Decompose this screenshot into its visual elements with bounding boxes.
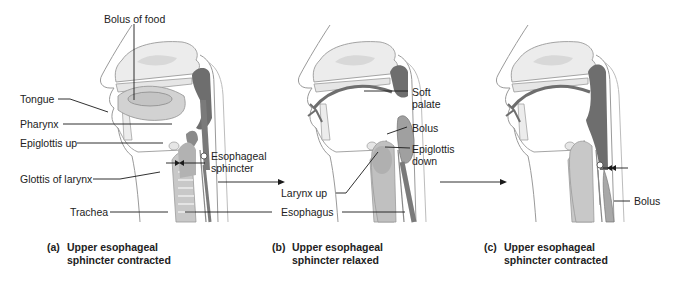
label-esophagus: Esophagus [281, 206, 334, 218]
label-bolus-b: Bolus [412, 122, 438, 134]
label-trachea: Trachea [70, 206, 108, 218]
caption-letter-c: (c) [484, 241, 497, 254]
label-epiglottis-down: Epiglottis down [412, 143, 455, 167]
caption-letter-a: (a) [47, 241, 60, 254]
caption-panel-c: (c) Upper esophageal sphincter contracte… [504, 241, 608, 267]
caption-panel-b: (b) Upper esophageal sphincter relaxed [292, 241, 383, 267]
label-bolus-c: Bolus [634, 195, 660, 207]
label-esophageal-sphincter: Esophageal sphincter [211, 150, 266, 174]
label-glottis-of-larynx: Glottis of larynx [20, 173, 92, 185]
label-tongue: Tongue [20, 93, 54, 105]
panel-a-artwork [100, 25, 228, 222]
label-larynx-up: Larynx up [281, 187, 327, 199]
caption-panel-a: (a) Upper esophageal sphincter contracte… [67, 241, 171, 267]
panel-c-artwork [496, 25, 624, 222]
label-bolus-of-food: Bolus of food [104, 13, 165, 25]
label-pharynx: Pharynx [20, 118, 59, 130]
caption-letter-b: (b) [272, 241, 285, 254]
label-soft-palate: Soft palate [412, 86, 441, 110]
swallowing-diagram: Bolus of food Tongue Pharynx Epiglottis … [0, 0, 678, 283]
label-epiglottis-up: Epiglottis up [20, 137, 77, 149]
